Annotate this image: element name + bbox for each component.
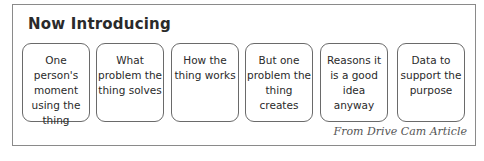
card-how-it-works: How the thing works <box>171 43 239 122</box>
card-reasons-good-idea: Reasons it is a good idea anyway <box>320 43 388 122</box>
card-label: But one problem the thing creates <box>247 53 311 113</box>
card-label: One person's moment using the thing <box>24 53 88 128</box>
card-problem-solved: What problem the thing solves <box>96 43 164 122</box>
card-label: Data to support the purpose <box>399 53 463 98</box>
card-label: What problem the thing solves <box>98 53 162 98</box>
source-citation: From Drive Cam Article <box>334 125 468 138</box>
card-persons-moment: One person's moment using the thing <box>22 43 90 122</box>
card-supporting-data: Data to support the purpose <box>397 43 465 122</box>
diagram-title: Now Introducing <box>28 15 171 33</box>
card-label: How the thing works <box>173 53 237 83</box>
card-label: Reasons it is a good idea anyway <box>322 53 386 113</box>
card-problem-created: But one problem the thing creates <box>245 43 313 122</box>
